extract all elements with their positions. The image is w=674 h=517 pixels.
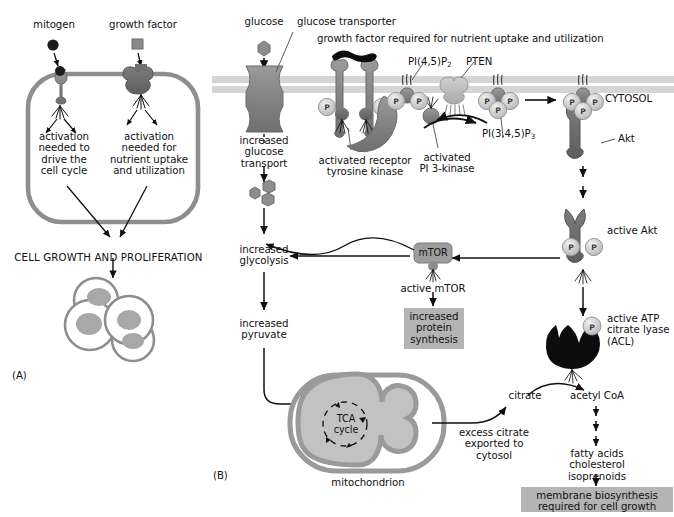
svg-text:P: P bbox=[324, 103, 330, 112]
svg-text:P: P bbox=[484, 97, 490, 106]
glucose-transporter-label: glucose transporter bbox=[297, 16, 417, 27]
panel-a-graphic bbox=[28, 39, 198, 361]
pten-icon bbox=[440, 77, 468, 115]
svg-text:P: P bbox=[591, 243, 597, 252]
membrane-biosynthesis-label: membrane biosynthesis required for cell … bbox=[523, 490, 671, 513]
active-akt-label: active Akt bbox=[607, 225, 673, 236]
activation-nutrient-uptake-box: activation needed for nutrient uptake an… bbox=[100, 131, 198, 177]
mitochondrion-icon bbox=[290, 374, 444, 471]
tca-cycle-label: TCA cycle bbox=[327, 413, 365, 436]
svg-text:P: P bbox=[568, 243, 574, 252]
growth-factor-requirement-note: growth factor required for nutrient upta… bbox=[317, 33, 617, 44]
activated-pi3k-label: activated PI 3-kinase bbox=[408, 152, 486, 175]
activated-rtk-label: activated receptor tyrosine kinase bbox=[313, 155, 417, 178]
svg-text:P: P bbox=[507, 97, 513, 106]
mitogen-label: mitogen bbox=[16, 19, 92, 30]
activation-cell-cycle-box: activation needed to drive the cell cycl… bbox=[27, 131, 101, 177]
intracellular-glucose-icons bbox=[250, 180, 275, 206]
svg-text:P: P bbox=[393, 97, 399, 106]
increased-glucose-transport-label: increased glucose transport bbox=[231, 135, 297, 169]
mitochondrion-label: mitochondrion bbox=[320, 477, 416, 488]
mitogen-ligand-icon bbox=[47, 39, 58, 50]
glucose-label: glucose bbox=[231, 16, 297, 27]
increased-pyruvate-label: increased pyruvate bbox=[231, 318, 297, 341]
svg-text:P: P bbox=[592, 98, 598, 107]
pi45p2-label: PI(4,5)P2 bbox=[408, 56, 468, 70]
cell-cluster-icon bbox=[65, 278, 154, 361]
active-acl-label: active ATP citrate lyase (ACL) bbox=[607, 313, 674, 347]
active-mtor-label: active mTOR bbox=[400, 283, 466, 294]
svg-text:P: P bbox=[580, 107, 586, 116]
acetyl-coa-label: acetyl CoA bbox=[566, 390, 628, 401]
lipid-products-label: fatty acids cholesterol isoprenoids bbox=[560, 448, 634, 482]
panel-a-letter: (A) bbox=[12, 370, 52, 381]
growth-factor-ligand-icon bbox=[132, 39, 143, 49]
citrate-label: citrate bbox=[497, 390, 553, 401]
active-acl-icon: P bbox=[546, 317, 601, 383]
increased-glycolysis-label: increased glycolysis bbox=[231, 244, 297, 267]
cytosol-label: CYTOSOL bbox=[605, 93, 671, 104]
growth-factor-label: growth factor bbox=[98, 19, 188, 30]
svg-text:P: P bbox=[495, 106, 501, 115]
svg-text:P: P bbox=[569, 98, 575, 107]
pi345p3-label: PI(3,4,5)P3 bbox=[482, 128, 556, 142]
svg-text:P: P bbox=[416, 97, 422, 106]
active-akt-icon: P P bbox=[562, 209, 602, 284]
akt-label: Akt bbox=[618, 133, 658, 144]
figure-cell-growth-signaling: P P P P bbox=[0, 0, 674, 517]
glucose-transporter-icon bbox=[246, 66, 283, 132]
panel-b-letter: (B) bbox=[213, 470, 253, 481]
excess-citrate-label: excess citrate exported to cytosol bbox=[448, 427, 540, 461]
cell-growth-proliferation-label: CELL GROWTH AND PROLIFERATION bbox=[6, 252, 211, 263]
mtor-label: mTOR bbox=[414, 247, 452, 258]
glucose-molecule-icon bbox=[258, 41, 270, 56]
svg-text:P: P bbox=[589, 323, 595, 332]
pten-label: PTEN bbox=[466, 56, 514, 67]
increased-protein-synthesis-label: increased protein synthesis bbox=[404, 311, 464, 345]
